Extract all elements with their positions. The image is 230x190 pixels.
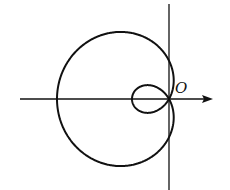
diagram-canvas (0, 0, 230, 190)
origin-label: O (175, 81, 187, 96)
polar-diagram: O (0, 0, 230, 190)
